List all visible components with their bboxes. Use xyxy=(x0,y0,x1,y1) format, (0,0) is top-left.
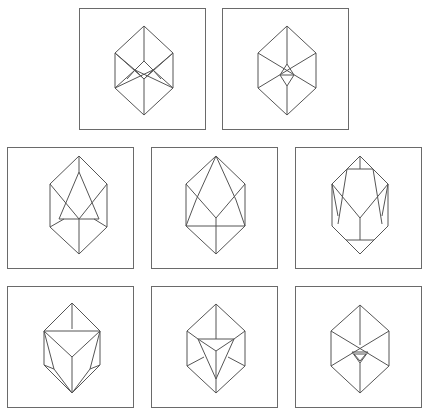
crystal-edge-1 xyxy=(196,156,216,200)
crystal-edge-6 xyxy=(186,200,196,226)
crystal-edge-9 xyxy=(332,184,338,216)
crystal-edge-2 xyxy=(187,331,198,339)
crystal-edge-6 xyxy=(44,331,54,369)
crystal-drawing-5 xyxy=(296,148,423,270)
diagram-panel-5 xyxy=(295,147,422,269)
crystal-edge-11 xyxy=(115,70,153,88)
crystal-edge-6 xyxy=(115,70,135,88)
crystal-drawing-2 xyxy=(223,9,350,131)
crystal-edge-5 xyxy=(280,75,287,86)
diagram-panel-1 xyxy=(79,8,206,130)
diagram-panel-2 xyxy=(222,8,349,130)
crystal-drawing-8 xyxy=(296,287,423,408)
crystal-edge-3 xyxy=(332,184,360,218)
crystal-drawing-1 xyxy=(80,9,207,131)
crystal-edge-10 xyxy=(54,369,72,393)
crystal-edge-12 xyxy=(135,70,173,88)
crystal-edge-3 xyxy=(79,184,107,219)
crystal-edge-2 xyxy=(50,184,79,219)
crystal-edge-2 xyxy=(216,156,236,200)
diagram-panel-3 xyxy=(7,147,134,269)
crystal-edge-7 xyxy=(236,200,245,226)
crystal-edge-3 xyxy=(44,331,72,357)
crystal-edge-6 xyxy=(94,219,107,227)
crystal-edge-5 xyxy=(50,219,64,227)
diagram-panel-6 xyxy=(7,286,134,408)
crystal-edge-7 xyxy=(187,357,204,366)
crystal-edge-11 xyxy=(72,369,90,393)
crystal-edge-4 xyxy=(360,184,388,218)
crystal-drawing-7 xyxy=(152,287,279,408)
crystal-edge-7 xyxy=(153,70,173,88)
diagram-panel-4 xyxy=(151,147,278,269)
crystal-edge-11 xyxy=(332,226,346,240)
diagram-panel-8 xyxy=(295,286,422,408)
crystal-edge-10 xyxy=(382,184,388,216)
crystal-edge-7 xyxy=(90,331,100,369)
crystal-edge-6 xyxy=(287,75,294,86)
crystal-edge-12 xyxy=(374,226,388,240)
crystal-edge-8 xyxy=(228,357,245,366)
crystal-drawing-4 xyxy=(152,148,279,270)
crystal-drawing-3 xyxy=(8,148,135,270)
crystal-edge-3 xyxy=(234,331,245,339)
crystal-outline xyxy=(59,172,99,219)
crystal-drawing-6 xyxy=(8,287,135,408)
diagram-panel-7 xyxy=(151,286,278,408)
crystal-outline xyxy=(135,61,153,79)
crystal-edge-4 xyxy=(72,331,100,357)
